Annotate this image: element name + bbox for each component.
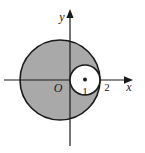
x-tick-label-2: 2 xyxy=(104,81,110,93)
center-point-marker xyxy=(83,78,87,82)
y-axis-label: y xyxy=(58,10,65,24)
figure-container: O 1 2 x y xyxy=(0,0,145,153)
x-axis-label: x xyxy=(125,80,132,94)
x-tick-label-1: 1 xyxy=(82,85,88,97)
origin-label: O xyxy=(54,81,63,95)
polar-region-diagram: O 1 2 x y xyxy=(0,0,145,153)
